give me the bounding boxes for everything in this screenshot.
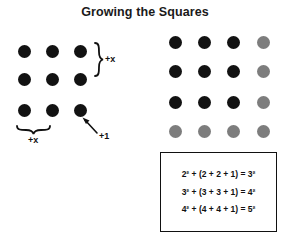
- growing-the-squares-figure: Growing the Squares: [0, 0, 290, 248]
- equation-box: 2² + (2 + 2 + 1) = 3² 3² + (3 + 3 + 1) =…: [160, 152, 277, 232]
- bottom-brace-label: +x: [28, 135, 38, 145]
- bottom-brace-icon: [17, 126, 50, 134]
- right-brace-label: +x: [105, 54, 115, 64]
- plus-one-arrow-icon: [83, 118, 98, 134]
- right-brace-icon: [95, 43, 103, 76]
- equation-line: 2² + (2 + 2 + 1) = 3²: [182, 166, 256, 184]
- equation-line: 4² + (4 + 4 + 1) = 5²: [182, 201, 256, 219]
- equation-line: 3² + (3 + 3 + 1) = 4²: [182, 183, 256, 201]
- plus-one-label: +1: [99, 131, 109, 141]
